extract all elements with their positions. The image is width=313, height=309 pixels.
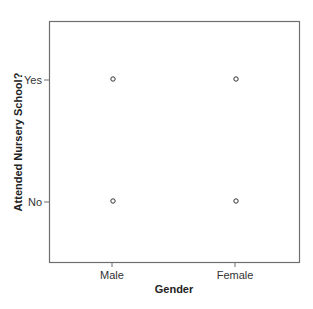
data-point-female-yes [234,77,238,81]
y-tick-label-no: No [28,196,42,208]
y-tick-label-yes: Yes [24,74,42,86]
data-point-male-no [111,199,115,203]
scatter-chart: Yes No Male Female Gender Attended Nurse… [0,0,313,309]
x-tick-label-male: Male [100,269,124,281]
data-point-male-yes [111,77,115,81]
y-axis-title: Attended Nursery School? [12,72,24,211]
x-tick-label-female: Female [217,269,254,281]
plot-area-frame [50,22,300,263]
data-point-female-no [234,199,238,203]
x-axis-title: Gender [155,283,194,295]
